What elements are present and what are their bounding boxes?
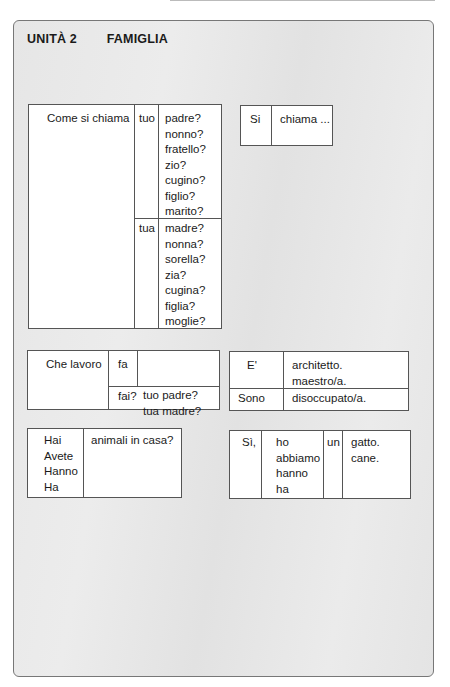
page-title: UNITÀ 2 FAMIGLIA <box>27 32 168 46</box>
animal-list: gatto.cane. <box>351 435 380 466</box>
verb-fa: fa <box>118 357 128 373</box>
subject-list: HaiAvete HannoHa <box>44 433 78 495</box>
pets-question-table: HaiAvete HannoHa animali in casa? <box>27 428 182 498</box>
job-question-table: Che lavoro fa tuo padre?tua madre? fai? <box>27 350 220 410</box>
name-question-table: Come si chiama tuo padre?nonno? fratello… <box>28 104 222 329</box>
answer-si: Si <box>250 112 260 128</box>
answer-disoccupato: disoccupato/a. <box>292 391 366 407</box>
job-answer-table: E' architetto.maestro/a. Sono disoccupat… <box>229 351 409 411</box>
verb-fai: fai? <box>118 389 137 405</box>
pets-answer-table: Sì, hoabbiamo hannoha un gatto.cane. <box>229 430 411 499</box>
article-un: un <box>327 435 340 451</box>
answer-chiama: chiama ... <box>280 112 330 128</box>
job-question: Che lavoro <box>46 357 102 373</box>
profession-list: architetto.maestro/a. <box>292 358 346 389</box>
name-answer-table: Si chiama ... <box>240 105 333 146</box>
top-rule <box>170 0 435 1</box>
answer-e: E' <box>247 358 257 374</box>
question-text: Come si chiama <box>47 111 129 127</box>
female-relatives-list: madre?nonna? sorella?zia? cugina?figlia?… <box>165 221 205 330</box>
topic-label: FAMIGLIA <box>107 32 168 46</box>
possessive-male: tuo <box>139 111 155 127</box>
unit-label: UNITÀ 2 <box>27 32 77 46</box>
possessive-female: tua <box>139 221 155 237</box>
answer-si-yes: Sì, <box>242 435 256 451</box>
verb-list: hoabbiamo hannoha <box>276 435 320 497</box>
pets-question: animali in casa? <box>91 433 173 449</box>
male-relatives-list: padre?nonno? fratello?zio? cugino?figlio… <box>165 111 206 220</box>
answer-sono: Sono <box>238 391 265 407</box>
